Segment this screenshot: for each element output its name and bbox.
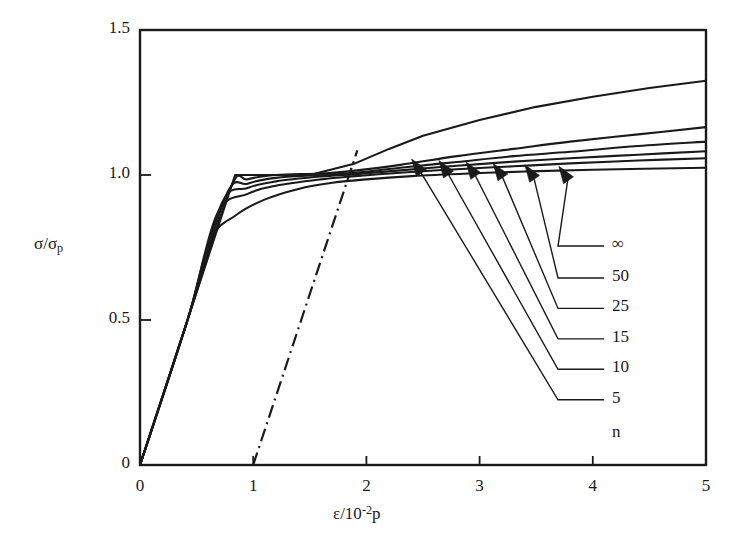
x-tick-label-0: 0 [120,476,160,496]
y-tick-label-0: 0 [78,453,130,473]
y-tick-label-1.5: 1.5 [78,18,130,38]
y-axis-label-base: σ/σ [34,234,57,253]
x-axis-label: ε/10-2p [333,503,381,524]
leader-line-15 [466,162,604,339]
x-tick-label-2: 2 [346,476,386,496]
x-axis-label-tail: p [372,504,381,523]
series-label-15: 15 [612,327,629,347]
series-label-50: 50 [612,266,629,286]
x-axis-label-base: ε/10 [333,504,362,523]
series-label-10: 10 [612,357,629,377]
series-label-5: 5 [612,388,621,408]
stress-strain-figure: 012345 00.51.01.5 ∞502515105 σ/σp ε/10-2… [0,0,745,553]
axis-ticks [140,175,593,465]
y-tick-label-1.0: 1.0 [78,163,130,183]
leader-line-25 [493,163,604,308]
series-label-25: 25 [612,296,629,316]
x-tick-label-5: 5 [686,476,726,496]
series-label-∞: ∞ [612,234,624,254]
legend-title: n [612,422,621,442]
y-axis-label: σ/σp [34,234,63,256]
leader-line-∞ [558,166,604,246]
annotation-leaders [412,159,604,400]
x-tick-label-1: 1 [233,476,273,496]
y-tick-label-0.5: 0.5 [78,308,130,328]
x-tick-label-3: 3 [460,476,500,496]
x-axis-label-exponent: -2 [362,503,372,517]
y-axis-label-subscript: p [57,241,63,255]
x-tick-label-4: 4 [573,476,613,496]
